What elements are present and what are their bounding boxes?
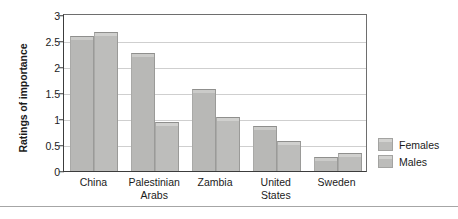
bar-males-sweden bbox=[338, 153, 362, 171]
bar-top-cap bbox=[155, 122, 179, 126]
bar-top-cap bbox=[314, 157, 338, 161]
x-axis-label-line: Sweden bbox=[292, 176, 382, 189]
bar-males-palestinian-arabs bbox=[155, 122, 179, 171]
bar-females-zambia bbox=[192, 89, 216, 171]
x-axis-label-sweden: Sweden bbox=[292, 176, 382, 189]
bar-body bbox=[277, 144, 301, 171]
bar-body bbox=[253, 129, 277, 171]
y-axis-tick-label: 2 bbox=[20, 62, 60, 74]
bar-top-cap bbox=[253, 126, 277, 130]
bar-males-zambia bbox=[216, 117, 240, 171]
y-axis-tick-mark bbox=[59, 93, 64, 95]
y-axis-tick-label: 0.5 bbox=[20, 140, 60, 152]
bar-top-cap bbox=[70, 36, 94, 40]
y-axis-tick-mark bbox=[59, 15, 64, 17]
footer-divider bbox=[0, 206, 458, 207]
y-axis-tick-label: 1.5 bbox=[20, 88, 60, 100]
y-axis-tick-mark bbox=[59, 67, 64, 69]
bar-top-cap bbox=[216, 117, 240, 121]
legend-label-males: Males bbox=[399, 156, 427, 168]
bar-males-china bbox=[94, 32, 118, 171]
legend-swatch-males bbox=[378, 155, 393, 168]
y-axis-tick-mark bbox=[59, 41, 64, 43]
bar-males-united-states bbox=[277, 141, 301, 171]
bar-top-cap bbox=[192, 89, 216, 93]
bar-body bbox=[94, 35, 118, 171]
bar-top-cap bbox=[131, 53, 155, 57]
bar-chart-figure: Ratings of importance 00.511.522.53 Chin… bbox=[0, 0, 458, 219]
y-axis-tick-label: 2.5 bbox=[20, 36, 60, 48]
bar-body bbox=[314, 160, 338, 171]
bar-top-cap bbox=[277, 141, 301, 145]
x-axis-label-line: States bbox=[231, 189, 321, 202]
bar-females-sweden bbox=[314, 157, 338, 171]
legend-swatch-females bbox=[378, 138, 393, 151]
bar-females-united-states bbox=[253, 126, 277, 171]
bar-body bbox=[216, 120, 240, 171]
bar-body bbox=[192, 92, 216, 171]
bar-body bbox=[70, 39, 94, 171]
legend-item-females[interactable]: Females bbox=[378, 136, 439, 153]
legend-label-females: Females bbox=[399, 139, 439, 151]
chart-legend: Females Males bbox=[378, 136, 439, 170]
bar-females-palestinian-arabs bbox=[131, 53, 155, 171]
y-axis-tick-label: 3 bbox=[20, 10, 60, 22]
bar-body bbox=[131, 56, 155, 171]
x-axis-label-line: Arabs bbox=[109, 189, 199, 202]
y-axis-tick-mark bbox=[59, 119, 64, 121]
bar-females-china bbox=[70, 36, 94, 171]
bar-top-cap bbox=[338, 153, 362, 157]
y-axis-tick-mark bbox=[59, 171, 64, 173]
bar-body bbox=[155, 125, 179, 171]
bar-top-cap bbox=[94, 32, 118, 36]
y-axis-tick-mark bbox=[59, 145, 64, 147]
bar-body bbox=[338, 156, 362, 171]
legend-item-males[interactable]: Males bbox=[378, 153, 439, 170]
y-axis-tick-label: 1 bbox=[20, 114, 60, 126]
plot-area: 00.511.522.53 bbox=[63, 14, 367, 172]
